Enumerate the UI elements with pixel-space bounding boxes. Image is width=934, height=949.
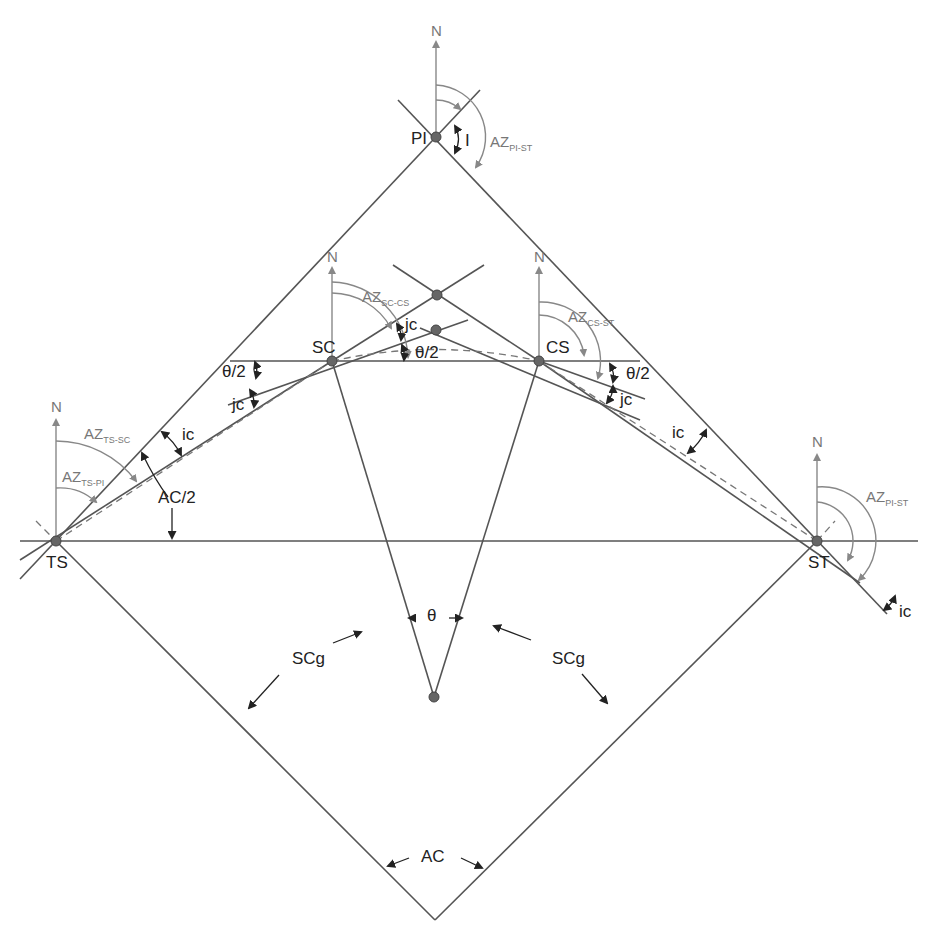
geometry-lines <box>20 90 918 920</box>
point-cs <box>534 356 544 366</box>
north-label-sc: N <box>327 248 338 265</box>
label-theta-half-cs: θ/2 <box>626 364 650 383</box>
radius-sc-center <box>332 361 434 697</box>
tangent-cs-spiral <box>420 328 640 420</box>
angle-theta-half-sc-arrow <box>402 345 404 360</box>
angle-jc-left-arrow <box>250 390 254 407</box>
angle-i-arrow <box>455 126 459 153</box>
scg-right-down-arrow <box>582 674 607 703</box>
label-ic-st: ic <box>899 602 912 621</box>
tangent-sc-up <box>332 265 484 361</box>
north-label-cs: N <box>534 248 545 265</box>
label-scg-right: SCg <box>552 649 585 668</box>
ac-left-arrow <box>388 858 409 866</box>
curve-points <box>51 132 822 702</box>
point-circle-center <box>429 692 439 702</box>
angle-theta-half-cs-arrow <box>610 364 614 382</box>
label-scg-left: SCg <box>292 649 325 668</box>
label-angle-i: I <box>465 131 470 150</box>
label-ts: TS <box>46 553 68 572</box>
label-ac-half: AC/2 <box>158 488 196 507</box>
north-label-ts: N <box>51 398 62 415</box>
label-az-pi-st-right: AZPI-ST <box>866 488 909 508</box>
point-st <box>812 536 822 546</box>
spiral-curve-dashed-left <box>56 361 332 541</box>
north-label-st: N <box>812 433 823 450</box>
az-arc-pi-st-top <box>436 85 486 167</box>
az-arc-pi-small <box>436 100 460 109</box>
label-sc: SC <box>312 338 336 357</box>
label-st: ST <box>808 553 830 572</box>
angle-ic-right-arrow <box>688 430 706 453</box>
label-jc-left: jc <box>231 395 245 414</box>
label-theta: θ <box>427 606 436 625</box>
scg-right-up-arrow <box>494 626 531 640</box>
radius-st-bottom <box>435 541 817 920</box>
label-cs: CS <box>546 338 570 357</box>
angle-theta-half-left-arrow <box>255 362 257 378</box>
label-az-ts-pi: AZTS-PI <box>62 468 104 488</box>
label-pi: PI <box>411 129 427 148</box>
scg-left-down-arrow <box>249 675 279 708</box>
ac-right-arrow <box>461 858 482 868</box>
az-arc-ts-pi <box>56 488 96 502</box>
point-intersection-top <box>432 290 442 300</box>
label-az-cs-st: AZCS-ST <box>568 308 615 328</box>
label-az-pi-st-top: AZPI-ST <box>490 133 533 153</box>
spiral-curve-dashed-right <box>539 361 817 541</box>
label-jc-cs: jc <box>619 390 633 409</box>
chord-ts-sc <box>20 361 332 560</box>
label-theta-half-left: θ/2 <box>222 362 246 381</box>
point-sc <box>327 356 337 366</box>
label-ic-left: ic <box>182 425 195 444</box>
angle-ic-st-arrow <box>884 596 895 610</box>
label-jc-sc: jc <box>404 315 418 334</box>
az-arc-st-small <box>817 502 853 560</box>
label-az-ts-sc: AZTS-SC <box>84 425 131 445</box>
label-ac: AC <box>421 847 445 866</box>
angle-arrows <box>142 126 895 868</box>
angle-ic-left-arrow <box>162 432 181 455</box>
label-theta-half-sc: θ/2 <box>415 343 439 362</box>
tangent-ts-pi <box>20 90 480 579</box>
radius-ts-bottom <box>56 541 435 920</box>
radius-cs-center <box>434 361 539 697</box>
point-ts <box>51 536 61 546</box>
angle-jc-cs-arrow <box>607 386 613 403</box>
chord-cs-st <box>539 361 860 583</box>
scg-left-up-arrow <box>333 632 361 643</box>
point-intersection-mid <box>431 325 441 335</box>
spiral-curve-diagram: N N N N N <box>0 0 934 949</box>
point-pi <box>431 132 441 142</box>
label-ic-right: ic <box>672 423 685 442</box>
north-label-pi: N <box>431 22 442 39</box>
